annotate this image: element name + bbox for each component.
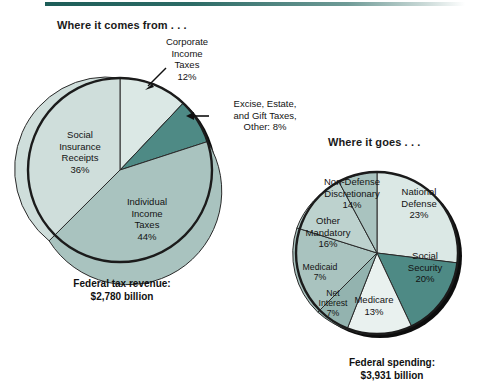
right-pie-svg [290,158,465,348]
left-chart-caption: Federal tax revenue: $2,780 billion [42,277,202,303]
right-chart-title: Where it goes . . . [328,136,420,148]
right-caption-line-2: $3,931 billion [312,369,472,382]
slice-national-defense [377,172,458,263]
left-pie-slices [15,77,222,285]
left-pie-svg [22,60,222,275]
right-caption-line-1: Federal spending: [349,357,435,368]
right-chart-caption: Federal spending: $3,931 billion [312,356,472,382]
left-pie-chart [22,60,222,275]
left-caption-line-2: $2,780 billion [42,290,202,303]
header-rule [45,2,465,6]
excise-leader-arrow [185,110,211,122]
corporate-leader-line [143,66,169,92]
left-chart-title: Where it comes from . . . [57,19,187,31]
right-pie-chart [290,158,465,348]
left-caption-line-1: Federal tax revenue: [73,278,170,289]
callout-excise-estate-gift-taxes: Excise, Estate, and Gift Taxes, Other: 8… [207,98,323,133]
